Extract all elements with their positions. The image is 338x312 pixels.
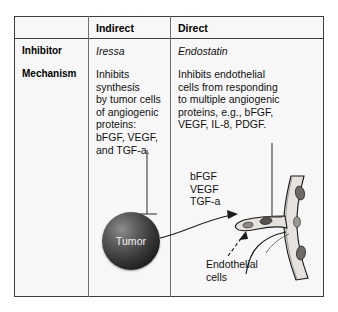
row-header-mechanism: Mechanism [22, 68, 76, 81]
table-frame [14, 16, 324, 297]
column-divider-2 [170, 16, 171, 297]
angiogenesis-inhibitor-figure: Indirect Direct Inhibitor Iressa Endosta… [0, 0, 338, 312]
tumor-label: Tumor [116, 235, 146, 247]
cell-mechanism-indirect: Inhibits synthesis by tumor cells of ang… [96, 68, 168, 156]
tumor-sphere-icon: Tumor [102, 212, 160, 270]
row-header-inhibitor: Inhibitor [22, 45, 62, 58]
cell-inhibitor-indirect: Iressa [96, 45, 125, 58]
column-header-direct: Direct [178, 22, 208, 35]
cell-mechanism-direct: Inhibits endothelial cells from respondi… [178, 68, 290, 131]
cell-inhibitor-direct: Endostatin [178, 45, 228, 58]
column-header-indirect: Indirect [96, 22, 134, 35]
growth-factors-label: bFGF VEGF TGF-a [190, 170, 220, 208]
header-rule [14, 38, 324, 39]
endothelial-cells-label: Endothelial cells [206, 258, 258, 283]
column-divider-1 [88, 16, 89, 297]
